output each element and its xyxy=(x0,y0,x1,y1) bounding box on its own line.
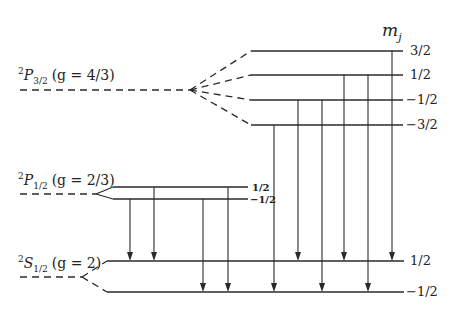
term-j: 1/2 xyxy=(33,181,47,191)
term-letter: P xyxy=(23,172,34,188)
transition-arrows xyxy=(127,51,395,292)
split-line xyxy=(82,277,107,292)
mj-label: −1/2 xyxy=(250,194,276,205)
sublevel-lines xyxy=(107,51,404,292)
mj-label: 1/2 xyxy=(410,67,431,82)
term-label-S12: 2S1/2(g = 2) xyxy=(18,254,101,274)
split-line xyxy=(190,51,251,90)
arrowhead-icon xyxy=(319,283,325,292)
zeeman-energy-level-diagram: 2P3/2(g = 4/3)2P1/2(g = 2/3)2S1/2(g = 2)… xyxy=(0,0,452,313)
term-g-factor: (g = 2) xyxy=(52,255,101,271)
term-g-factor: (g = 4/3) xyxy=(52,67,115,83)
term-g-factor: (g = 2/3) xyxy=(52,172,115,188)
term-letter: P xyxy=(23,67,34,83)
arrowhead-icon xyxy=(200,283,206,292)
term-j: 1/2 xyxy=(33,264,47,274)
arrowhead-icon xyxy=(271,283,277,292)
split-line xyxy=(96,194,113,199)
mj-label: 1/2 xyxy=(410,253,431,268)
mj-label: −1/2 xyxy=(406,92,438,107)
arrowhead-icon xyxy=(127,252,133,261)
arrowhead-icon xyxy=(365,283,371,292)
split-line xyxy=(190,90,251,100)
term-j: 3/2 xyxy=(33,76,47,86)
arrowhead-icon xyxy=(341,252,347,261)
mj-letter: m xyxy=(382,20,398,40)
mj-label: 1/2 xyxy=(252,182,270,193)
term-label-P12: 2P1/2(g = 2/3) xyxy=(18,171,115,191)
arrowhead-icon xyxy=(389,252,395,261)
mj-label: −1/2 xyxy=(406,284,438,299)
mj-label: 3/2 xyxy=(410,43,431,58)
mj-label: −3/2 xyxy=(406,117,438,132)
term-label-P32: 2P3/2(g = 4/3) xyxy=(18,66,115,86)
split-line xyxy=(96,187,113,194)
term-letter: S xyxy=(24,255,34,271)
mj-axis-title: mj xyxy=(382,20,402,44)
split-line xyxy=(190,75,251,90)
arrowhead-icon xyxy=(295,252,301,261)
arrowhead-icon xyxy=(151,252,157,261)
arrowhead-icon xyxy=(225,283,231,292)
